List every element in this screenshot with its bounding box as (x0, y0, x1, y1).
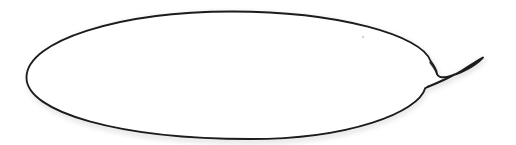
drawing-canvas (0, 0, 516, 145)
scan-speck-artifact (362, 36, 364, 38)
speech-balloon-illustration (0, 0, 516, 145)
